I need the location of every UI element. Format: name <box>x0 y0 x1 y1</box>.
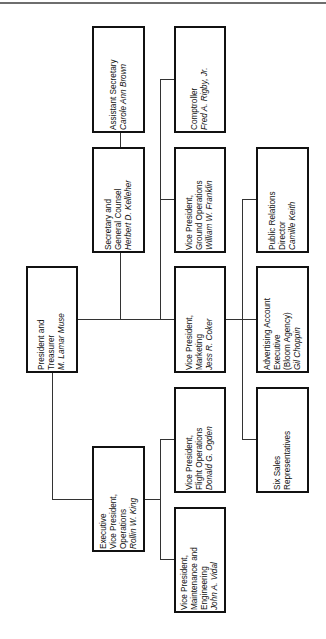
node-sales-reps: Six Sales Representatives <box>256 387 309 493</box>
node-title: Treasurer <box>47 270 57 370</box>
node-person: Fred A. Rigby, Jr. <box>200 30 210 130</box>
node-vp-ground: Vice President, Ground Operations Willia… <box>174 147 226 253</box>
connector-asst-secretary <box>120 132 121 147</box>
node-title: Maintenance and <box>190 510 200 610</box>
node-title: Marketing <box>195 270 205 370</box>
connector-main-horizontal <box>77 319 174 320</box>
connector-pr <box>242 199 256 200</box>
node-asst-secretary: Assistant Secretary Carole Ann Brown <box>92 26 145 133</box>
node-title: President and <box>37 270 47 370</box>
node-title: Ground Operations <box>195 150 205 250</box>
node-vp-flight: Vice President, Flight Operations Donald… <box>174 387 226 493</box>
connector-comptroller <box>160 79 174 80</box>
node-person: Jess R. Coker <box>205 270 215 370</box>
node-vp-maintenance: Vice President, Maintenance and Engineer… <box>174 507 226 613</box>
node-person: Donald G. Ogden <box>205 390 215 490</box>
connector-evp-right <box>144 499 160 500</box>
node-title: Vice President, <box>109 449 119 549</box>
node-pr-director: Public Relations Director Camille Keith <box>256 147 309 253</box>
node-person: Rollin W. King <box>129 449 139 549</box>
node-title: Engineering <box>200 510 210 610</box>
node-title: (Bloom Agency) <box>283 270 293 370</box>
node-title: Public Relations <box>268 150 278 250</box>
node-person: Herbert D. Kelleher <box>124 150 134 250</box>
node-title: Representatives <box>283 390 293 490</box>
node-title: Six Sales <box>273 390 283 490</box>
node-title: Vice President, <box>185 390 195 490</box>
node-vp-marketing: Vice President, Marketing Jess R. Coker <box>174 266 226 373</box>
connector-evp <box>52 499 92 500</box>
node-person: M. Lamar Muse <box>57 270 67 370</box>
node-title: Operations <box>119 449 129 549</box>
node-secretary: Secretary and General Counsel Herbert D.… <box>92 147 145 253</box>
node-person: Gil Choppin <box>293 270 303 370</box>
node-title: Vice President, <box>185 270 195 370</box>
node-evp-operations: Executive Vice President, Operations Rol… <box>92 446 145 552</box>
node-comptroller: Comptroller Fred A. Rigby, Jr. <box>174 26 226 133</box>
node-president: President and Treasurer M. Lamar Muse <box>26 266 78 373</box>
connector-marketing-right <box>225 319 242 320</box>
node-person: William W. Franklin <box>205 150 215 250</box>
node-advertising-exec: Advertising Account Executive (Bloom Age… <box>256 266 309 373</box>
node-title: Executive <box>273 270 283 370</box>
node-title: Vice President, <box>185 150 195 250</box>
node-title: Secretary and <box>104 150 114 250</box>
node-title: Comptroller <box>190 30 200 130</box>
connector-sales <box>242 439 256 440</box>
connector-vp-ground <box>160 199 174 200</box>
node-person: Camille Keith <box>288 150 298 250</box>
node-title: Vice President, <box>180 510 190 610</box>
node-title: Director <box>278 150 288 250</box>
node-person: Carole Ann Brown <box>119 30 129 130</box>
connector-vp-maint <box>160 559 174 560</box>
node-person: John A. Vidal <box>210 510 220 610</box>
connector-adv <box>242 319 256 320</box>
connector-ops-trunk <box>160 439 161 559</box>
node-title: General Counsel <box>114 150 124 250</box>
header-rule <box>0 2 326 4</box>
node-title: Executive <box>99 449 109 549</box>
connector-secretary <box>120 252 121 319</box>
connector-president-down <box>52 372 53 499</box>
connector-vp-flight <box>160 439 174 440</box>
node-title: Flight Operations <box>195 390 205 490</box>
node-title: Advertising Account <box>263 270 273 370</box>
node-title: Assistant Secretary <box>109 30 119 130</box>
